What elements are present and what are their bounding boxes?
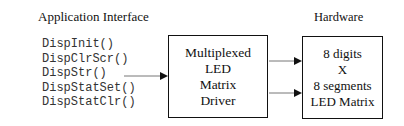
arrow-api-to-driver	[124, 72, 168, 80]
connector-arrows	[0, 0, 404, 126]
arrow-driver-to-hardware-bottom	[269, 89, 302, 97]
arrow-driver-to-hardware-top	[269, 57, 302, 65]
